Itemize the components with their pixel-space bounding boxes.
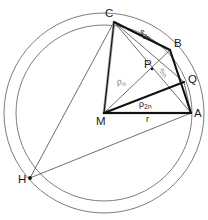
- segment-label-sn: sn: [157, 65, 170, 79]
- point-label-C: C: [105, 7, 113, 19]
- geometry-diagram: C B P Q A M H s2n sn ρn ρ2n r: [0, 0, 208, 220]
- point-labels-group: C B P Q A M H: [18, 7, 202, 185]
- segment-C-Q: [114, 22, 184, 82]
- point-label-P: P: [144, 58, 152, 70]
- point-label-M: M: [96, 115, 106, 127]
- point-label-B: B: [174, 37, 182, 49]
- point-label-A: A: [194, 107, 202, 119]
- segment-label-rho-2n: ρ2n: [138, 98, 152, 110]
- segment-H-A: [30, 113, 191, 178]
- segment-M-B: [104, 50, 170, 113]
- point-marker-H: [28, 176, 32, 180]
- point-label-H: H: [18, 173, 26, 185]
- geometry-canvas: C B P Q A M H s2n sn ρn ρ2n r: [0, 0, 208, 220]
- segment-C-H: [30, 22, 114, 178]
- segment-label-rho-n-sub: n: [122, 80, 127, 87]
- segment-label-rho-2n-sub: 2n: [144, 103, 152, 111]
- point-markers-group: [28, 68, 153, 180]
- segment-label-rho-n: ρn: [116, 76, 127, 88]
- segment-label-r: r: [146, 114, 149, 124]
- segment-M-C-heavy: [104, 22, 114, 113]
- point-label-Q: Q: [188, 73, 197, 85]
